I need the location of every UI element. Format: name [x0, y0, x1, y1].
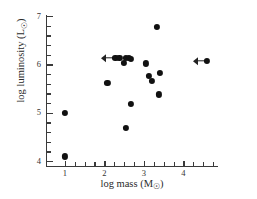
x-axis-major-tick [104, 161, 105, 167]
x-axis-minor-tick [85, 162, 86, 166]
x-axis-tick-label: 1 [58, 168, 72, 178]
x-axis-tick-label: 4 [176, 168, 190, 178]
y-axis-minor-tick [47, 74, 51, 75]
y-axis-major-tick [47, 161, 53, 162]
y-axis-tick-label: 5 [31, 107, 41, 117]
x-axis-major-tick [65, 161, 66, 167]
y-axis-tick-label: 4 [31, 156, 41, 166]
x-axis-minor-tick [94, 162, 95, 166]
x-axis-minor-tick [134, 162, 135, 166]
y-axis-minor-tick [47, 45, 51, 46]
y-axis-major-tick [47, 16, 53, 17]
arrow-head [193, 57, 198, 65]
y-axis-major-tick [47, 64, 53, 65]
y-axis-minor-tick [47, 26, 51, 27]
y-axis-label-paren: ) [15, 19, 26, 23]
y-axis-minor-tick [47, 142, 51, 143]
y-axis-major-tick [47, 113, 53, 114]
plot-area [47, 16, 217, 166]
x-axis-tick-label: 2 [97, 168, 111, 178]
x-axis-label: log mass (M☉) [47, 178, 217, 191]
y-axis-label-text: log luminosity (L [15, 29, 26, 103]
y-axis-minor-tick [47, 103, 51, 104]
x-axis-major-tick [144, 161, 145, 167]
y-axis-tick-label: 7 [31, 11, 41, 21]
y-axis-minor-tick [47, 84, 51, 85]
y-axis-tick-label: 6 [31, 59, 41, 69]
y-axis-minor-tick [47, 55, 51, 56]
y-axis-minor-tick [47, 122, 51, 123]
x-axis-label-paren: ) [160, 178, 164, 189]
x-axis-minor-tick [193, 162, 194, 166]
x-axis-minor-tick [75, 162, 76, 166]
x-axis-minor-tick [164, 162, 165, 166]
x-axis-minor-tick [213, 162, 214, 166]
y-axis-label: log luminosity (L☉) [15, 0, 28, 131]
x-axis-tick-label: 3 [137, 168, 151, 178]
x-axis-label-sun-symbol: ☉ [153, 182, 160, 191]
x-axis-minor-tick [114, 162, 115, 166]
x-axis-minor-tick [174, 162, 175, 166]
arrow-head [101, 54, 106, 62]
x-axis-minor-tick [203, 162, 204, 166]
scatter-plot-figure: 4567 1234 log luminosity (L☉) log mass (… [0, 0, 257, 199]
y-axis-minor-tick [47, 151, 51, 152]
x-axis-label-text: log mass (M [101, 178, 154, 189]
x-axis-minor-tick [124, 162, 125, 166]
x-axis-minor-tick [154, 162, 155, 166]
y-axis-minor-tick [47, 93, 51, 94]
y-axis-minor-tick [47, 35, 51, 36]
y-axis-label-sun-symbol: ☉ [20, 22, 29, 29]
x-axis-major-tick [183, 161, 184, 167]
y-axis-minor-tick [47, 132, 51, 133]
